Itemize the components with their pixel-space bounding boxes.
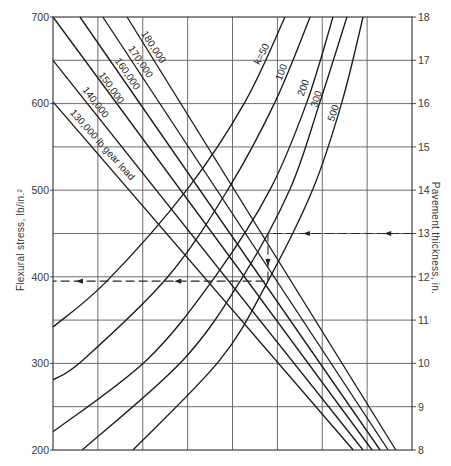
y2-tick-label: 12 — [418, 271, 430, 283]
y-tick-label: 400 — [31, 271, 49, 283]
curve-labels: 180,000170,000160,000150,000140,000130,0… — [68, 29, 341, 182]
y2-tick-label: 17 — [418, 54, 430, 66]
gear-load-line-140-000 — [53, 60, 363, 450]
y2-tick-label: 13 — [418, 227, 430, 239]
pavement-design-chart: 180,000170,000160,000150,000140,000130,0… — [0, 0, 451, 466]
y-tick-label: 200 — [31, 444, 49, 456]
y2-tick-label: 16 — [418, 97, 430, 109]
arrow-left-icon — [76, 279, 83, 284]
y-axis-title: Flexural stress, lb/in.² — [15, 189, 26, 292]
y2-tick-label: 10 — [418, 357, 430, 369]
y2-tick-label: 14 — [418, 184, 430, 196]
arrow-left-icon — [174, 279, 181, 284]
y-tick-label: 300 — [31, 357, 49, 369]
y2-tick-label: 11 — [418, 314, 429, 326]
arrow-left-icon — [303, 231, 310, 236]
y2-tick-label: 18 — [418, 11, 430, 23]
y-tick-label: 600 — [31, 97, 49, 109]
y-tick-label: 700 — [31, 11, 49, 23]
curve-label: 200 — [295, 78, 311, 98]
y2-tick-label: 15 — [418, 141, 430, 153]
k-value-curve-200 — [53, 17, 333, 432]
curve-label: 100 — [273, 62, 290, 82]
arrow-left-icon — [384, 231, 391, 236]
y2-tick-label: 9 — [418, 401, 424, 413]
k-value-curve-100 — [53, 17, 310, 380]
curve-label: 500 — [325, 103, 341, 123]
y2-tick-label: 8 — [418, 444, 424, 456]
y-tick-label: 500 — [31, 184, 49, 196]
y2-axis-title: Pavement thickness, in. — [430, 182, 441, 295]
